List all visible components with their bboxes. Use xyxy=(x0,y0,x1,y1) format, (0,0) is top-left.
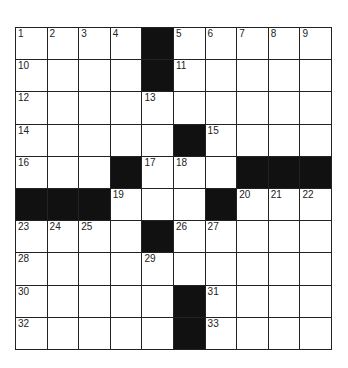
crossword-cell[interactable] xyxy=(48,92,79,123)
crossword-cell[interactable] xyxy=(48,318,79,349)
crossword-cell[interactable]: 32 xyxy=(16,318,47,349)
crossword-cell[interactable] xyxy=(79,60,110,91)
crossword-cell[interactable]: 3 xyxy=(79,28,110,59)
crossword-cell[interactable] xyxy=(269,92,300,123)
crossword-cell[interactable] xyxy=(111,221,142,252)
crossword-cell[interactable] xyxy=(237,318,268,349)
crossword-cell[interactable]: 33 xyxy=(206,318,237,349)
clue-number: 29 xyxy=(144,254,155,264)
crossword-cell[interactable]: 19 xyxy=(111,189,142,220)
crossword-cell[interactable] xyxy=(142,125,173,156)
crossword-cell[interactable]: 11 xyxy=(174,60,205,91)
crossword-cell[interactable] xyxy=(48,125,79,156)
crossword-cell[interactable]: 10 xyxy=(16,60,47,91)
crossword-cell[interactable] xyxy=(300,221,331,252)
crossword-cell[interactable]: 12 xyxy=(16,92,47,123)
crossword-cell[interactable] xyxy=(237,92,268,123)
clue-number: 22 xyxy=(302,190,313,200)
clue-number: 16 xyxy=(18,158,29,168)
crossword-cell[interactable] xyxy=(142,318,173,349)
crossword-cell[interactable] xyxy=(111,60,142,91)
crossword-cell[interactable] xyxy=(300,125,331,156)
crossword-cell[interactable] xyxy=(79,125,110,156)
clue-number: 3 xyxy=(81,29,87,39)
crossword-cell[interactable]: 1 xyxy=(16,28,47,59)
crossword-cell[interactable] xyxy=(206,92,237,123)
crossword-cell[interactable] xyxy=(206,60,237,91)
crossword-cell[interactable] xyxy=(174,189,205,220)
crossword-cell[interactable] xyxy=(48,286,79,317)
crossword-cell[interactable]: 6 xyxy=(206,28,237,59)
clue-number: 30 xyxy=(18,287,29,297)
crossword-cell[interactable] xyxy=(111,286,142,317)
crossword-cell[interactable]: 31 xyxy=(206,286,237,317)
clue-number: 1 xyxy=(18,29,24,39)
crossword-cell[interactable]: 30 xyxy=(16,286,47,317)
crossword-cell[interactable] xyxy=(174,92,205,123)
crossword-cell[interactable] xyxy=(79,92,110,123)
crossword-cell[interactable]: 18 xyxy=(174,157,205,188)
crossword-cell[interactable]: 17 xyxy=(142,157,173,188)
crossword-cell[interactable] xyxy=(206,253,237,284)
crossword-cell[interactable]: 9 xyxy=(300,28,331,59)
crossword-cell[interactable]: 28 xyxy=(16,253,47,284)
crossword-cell[interactable] xyxy=(48,157,79,188)
black-square xyxy=(142,28,173,59)
crossword-cell[interactable]: 23 xyxy=(16,221,47,252)
crossword-cell[interactable] xyxy=(269,60,300,91)
clue-number: 5 xyxy=(176,29,182,39)
clue-number: 21 xyxy=(271,190,282,200)
crossword-cell[interactable]: 22 xyxy=(300,189,331,220)
crossword-cell[interactable] xyxy=(79,157,110,188)
crossword-cell[interactable] xyxy=(111,125,142,156)
crossword-cell[interactable]: 24 xyxy=(48,221,79,252)
crossword-cell[interactable]: 14 xyxy=(16,125,47,156)
clue-number: 11 xyxy=(176,61,186,71)
crossword-cell[interactable] xyxy=(269,286,300,317)
crossword-cell[interactable] xyxy=(111,253,142,284)
crossword-cell[interactable]: 13 xyxy=(142,92,173,123)
crossword-cell[interactable] xyxy=(111,318,142,349)
crossword-cell[interactable] xyxy=(269,253,300,284)
crossword-cell[interactable]: 5 xyxy=(174,28,205,59)
crossword-cell[interactable] xyxy=(300,286,331,317)
crossword-cell[interactable]: 16 xyxy=(16,157,47,188)
crossword-cell[interactable] xyxy=(79,286,110,317)
crossword-cell[interactable]: 29 xyxy=(142,253,173,284)
crossword-cell[interactable]: 4 xyxy=(111,28,142,59)
crossword-cell[interactable] xyxy=(300,60,331,91)
crossword-cell[interactable]: 27 xyxy=(206,221,237,252)
crossword-cell[interactable] xyxy=(237,60,268,91)
crossword-cell[interactable] xyxy=(142,286,173,317)
crossword-cell[interactable] xyxy=(206,157,237,188)
crossword-cell[interactable] xyxy=(174,253,205,284)
clue-number: 4 xyxy=(113,29,119,39)
crossword-cell[interactable] xyxy=(48,253,79,284)
crossword-cell[interactable] xyxy=(269,221,300,252)
crossword-cell[interactable] xyxy=(237,221,268,252)
crossword-cell[interactable]: 21 xyxy=(269,189,300,220)
crossword-cell[interactable] xyxy=(269,318,300,349)
crossword-cell[interactable]: 8 xyxy=(269,28,300,59)
crossword-cell[interactable] xyxy=(237,286,268,317)
crossword-cell[interactable]: 2 xyxy=(48,28,79,59)
black-square xyxy=(269,157,300,188)
black-square xyxy=(174,125,205,156)
crossword-cell[interactable]: 25 xyxy=(79,221,110,252)
crossword-cell[interactable] xyxy=(237,253,268,284)
crossword-cell[interactable] xyxy=(269,125,300,156)
clue-number: 26 xyxy=(176,222,187,232)
crossword-cell[interactable] xyxy=(48,60,79,91)
crossword-cell[interactable] xyxy=(142,189,173,220)
crossword-cell[interactable] xyxy=(300,318,331,349)
crossword-cell[interactable]: 20 xyxy=(237,189,268,220)
crossword-cell[interactable] xyxy=(300,253,331,284)
crossword-cell[interactable] xyxy=(237,125,268,156)
crossword-cell[interactable]: 7 xyxy=(237,28,268,59)
crossword-cell[interactable]: 15 xyxy=(206,125,237,156)
crossword-cell[interactable] xyxy=(79,253,110,284)
crossword-cell[interactable] xyxy=(300,92,331,123)
crossword-cell[interactable] xyxy=(111,92,142,123)
crossword-cell[interactable] xyxy=(79,318,110,349)
crossword-cell[interactable]: 26 xyxy=(174,221,205,252)
